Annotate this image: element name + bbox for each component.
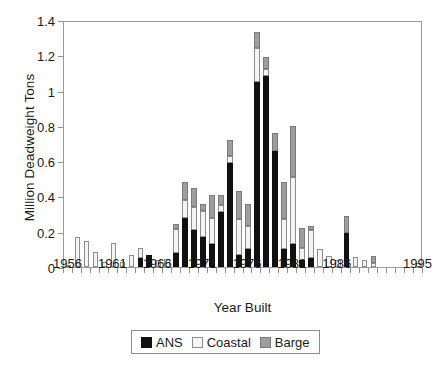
bar-segment-ans	[227, 163, 233, 267]
x-axis-tick	[386, 268, 387, 273]
x-axis-tick	[135, 268, 136, 273]
bar-1989	[362, 260, 368, 267]
bar-1981	[290, 126, 296, 267]
bar-segment-barge	[182, 182, 188, 200]
bar-segment-coastal	[191, 207, 197, 230]
bar-segment-coastal	[173, 229, 179, 253]
bar-1980	[281, 182, 287, 267]
x-axis-tick-label: 1976	[233, 256, 262, 271]
y-axis-tick-label: 0.6	[9, 155, 55, 170]
bar-segment-coastal	[281, 219, 287, 249]
y-axis-tick-label: 0.8	[9, 119, 55, 134]
bar-segment-coastal	[353, 257, 359, 267]
x-axis-tick	[225, 268, 226, 273]
x-axis-tick	[90, 268, 91, 273]
x-axis-tick	[314, 268, 315, 273]
bar-segment-coastal	[209, 218, 215, 244]
bar-segment-coastal	[129, 255, 135, 267]
legend-swatch-ans-icon	[141, 337, 152, 348]
x-axis-tick-label: 1971	[188, 256, 217, 271]
bar-segment-ans	[173, 253, 179, 267]
bar-segment-barge	[308, 226, 314, 230]
x-axis-tick-label: 1995	[403, 256, 432, 271]
legend-label-coastal: Coastal	[207, 335, 251, 350]
bar-segment-barge	[236, 191, 242, 219]
bar-segment-barge	[344, 216, 350, 234]
x-axis-title: Year Built	[63, 300, 422, 315]
bar-1988	[353, 257, 359, 267]
bar-segment-barge	[200, 204, 206, 211]
bar-segment-coastal	[236, 219, 242, 254]
bar-segment-ans	[308, 258, 314, 267]
bar-segment-coastal	[263, 69, 269, 76]
x-axis-tick	[359, 268, 360, 273]
x-axis-tick-label: 1956	[53, 256, 82, 271]
x-axis-tick	[180, 268, 181, 273]
x-axis-tick	[395, 268, 396, 273]
x-axis-tick-label: 1986	[322, 256, 351, 271]
plot-area	[63, 21, 422, 268]
bar-segment-barge	[281, 182, 287, 219]
bar-1963	[129, 255, 135, 267]
bars-container	[64, 22, 421, 267]
bar-segment-coastal	[254, 48, 260, 82]
bar-segment-coastal	[362, 260, 368, 267]
bar-1969	[182, 182, 188, 267]
bar-segment-barge	[191, 188, 197, 207]
chart-legend: ANS Coastal Barge	[131, 330, 320, 354]
bar-1968	[173, 224, 179, 267]
bar-segment-coastal	[227, 156, 233, 163]
x-axis-tick	[368, 268, 369, 273]
y-axis-tick-label: 1	[9, 84, 55, 99]
bar-1958	[84, 241, 90, 267]
legend-swatch-barge-icon	[260, 337, 271, 348]
y-axis-tick-label: 0.4	[9, 190, 55, 205]
bar-segment-barge	[245, 204, 251, 227]
legend-item-ans: ANS	[141, 335, 183, 350]
bar-segment-barge	[227, 140, 233, 156]
bar-segment-coastal	[245, 226, 251, 249]
bar-segment-barge	[209, 195, 215, 218]
y-axis-tick-label: 0	[9, 261, 55, 276]
bar-segment-barge	[272, 133, 278, 151]
x-axis-tick	[269, 268, 270, 273]
y-axis-tick-label: 0.2	[9, 225, 55, 240]
legend-item-barge: Barge	[260, 335, 310, 350]
bar-segment-ans	[218, 212, 224, 267]
bar-1978	[263, 57, 269, 267]
y-axis-tick-label: 1.2	[9, 49, 55, 64]
bar-segment-barge	[371, 256, 377, 262]
y-axis-tick-label: 1.4	[9, 14, 55, 29]
bar-segment-ans	[263, 76, 269, 267]
bar-segment-barge	[254, 32, 260, 48]
bar-1973	[218, 195, 224, 267]
bar-segment-ans	[272, 151, 278, 267]
bar-1990	[371, 256, 377, 267]
bar-1977	[254, 32, 260, 267]
bar-1979	[272, 133, 278, 267]
x-axis-tick-label: 1961	[98, 256, 127, 271]
bar-1983	[308, 226, 314, 267]
x-axis-tick-label: 1981	[277, 256, 306, 271]
bar-segment-coastal	[290, 177, 296, 244]
legend-swatch-coastal-icon	[192, 337, 203, 348]
bar-segment-coastal	[84, 241, 90, 267]
x-axis-tick	[377, 268, 378, 273]
legend-item-coastal: Coastal	[192, 335, 251, 350]
stacked-bar-chart: Million Deadweight Tons 00.20.40.60.811.…	[0, 0, 437, 366]
bar-segment-coastal	[182, 200, 188, 218]
bar-segment-barge	[218, 195, 224, 206]
bar-segment-coastal	[371, 263, 377, 267]
legend-label-barge: Barge	[275, 335, 310, 350]
x-axis-tick-label: 1966	[143, 256, 172, 271]
bar-1974	[227, 140, 233, 267]
bar-segment-coastal	[218, 205, 224, 212]
bar-segment-barge	[263, 57, 269, 69]
bar-segment-barge	[299, 228, 305, 247]
bar-segment-coastal	[200, 211, 206, 237]
bar-segment-ans	[254, 82, 260, 267]
bar-segment-coastal	[308, 230, 314, 258]
bar-segment-barge	[290, 126, 296, 177]
bar-segment-barge	[173, 224, 179, 229]
legend-label-ans: ANS	[156, 335, 183, 350]
